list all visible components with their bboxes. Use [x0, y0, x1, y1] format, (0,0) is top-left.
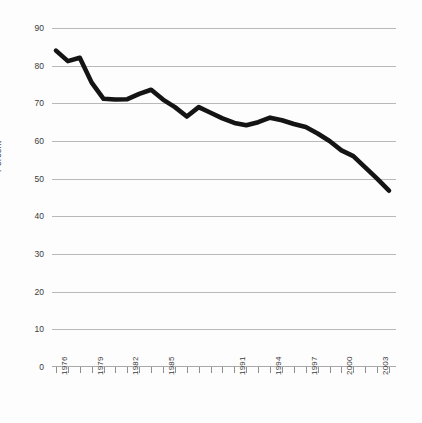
y-tick-label: 90 — [0, 23, 44, 33]
x-tick — [104, 367, 105, 373]
x-tick — [258, 367, 259, 373]
x-tick — [341, 367, 342, 373]
gridline — [52, 28, 396, 29]
x-tick — [330, 367, 331, 373]
x-tick — [56, 367, 57, 373]
x-tick — [199, 367, 200, 373]
gridline — [52, 254, 396, 255]
x-tick — [92, 367, 93, 373]
x-tick — [246, 367, 247, 373]
gridline — [52, 329, 396, 330]
y-tick-label: 30 — [0, 249, 44, 259]
x-tick — [234, 367, 235, 373]
x-tick — [211, 367, 212, 373]
x-tick — [377, 367, 378, 373]
x-tick — [294, 367, 295, 373]
plot-area — [52, 28, 396, 367]
gridline — [52, 66, 396, 67]
y-tick-label: 0 — [0, 362, 44, 372]
y-tick-label: 60 — [0, 136, 44, 146]
x-tick — [80, 367, 81, 373]
x-tick — [163, 367, 164, 373]
x-tick — [115, 367, 116, 373]
x-tick — [365, 367, 366, 373]
y-tick-label: 10 — [0, 324, 44, 334]
gridline — [52, 179, 396, 180]
line-chart: 9080706050403020100 Percent 197619791982… — [0, 0, 422, 423]
y-tick-label: 40 — [0, 211, 44, 221]
x-tick — [306, 367, 307, 373]
x-tick — [282, 367, 283, 373]
x-tick — [139, 367, 140, 373]
y-tick-label: 50 — [0, 174, 44, 184]
x-tick — [270, 367, 271, 373]
x-tick — [127, 367, 128, 373]
gridline — [52, 292, 396, 293]
y-tick-label: 20 — [0, 287, 44, 297]
gridline — [52, 141, 396, 142]
y-tick-label: 70 — [0, 98, 44, 108]
x-tick — [68, 367, 69, 373]
x-tick — [318, 367, 319, 373]
y-tick-label: 80 — [0, 61, 44, 71]
x-tick — [389, 367, 390, 373]
x-tick — [222, 367, 223, 373]
x-tick — [187, 367, 188, 373]
y-axis-title: Percent — [0, 141, 3, 172]
gridline — [52, 216, 396, 217]
x-tick — [175, 367, 176, 373]
x-tick — [353, 367, 354, 373]
gridline — [52, 103, 396, 104]
x-tick — [151, 367, 152, 373]
